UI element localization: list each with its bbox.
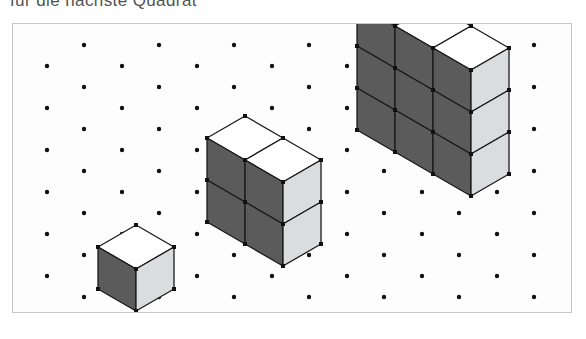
grid-dot bbox=[45, 148, 49, 152]
cube-vertex-dot bbox=[355, 44, 359, 48]
grid-dot bbox=[195, 106, 199, 110]
cube-vertex-dot bbox=[172, 245, 176, 249]
grid-dot bbox=[82, 85, 86, 89]
cube-vertex-dot bbox=[205, 136, 209, 140]
cube-structures-diagram bbox=[13, 24, 572, 313]
cube-vertex-dot bbox=[507, 130, 511, 134]
cube-vertex-dot bbox=[431, 46, 435, 50]
grid-dot bbox=[457, 211, 461, 215]
grid-dot bbox=[345, 190, 349, 194]
grid-dot bbox=[532, 295, 536, 299]
cube-vertex-dot bbox=[469, 152, 473, 156]
cube-vertex-dot bbox=[393, 150, 397, 154]
grid-dot bbox=[195, 274, 199, 278]
grid-dot bbox=[195, 232, 199, 236]
cube-vertex-dot bbox=[281, 180, 285, 184]
grid-dot bbox=[232, 85, 236, 89]
grid-dot bbox=[345, 106, 349, 110]
cut-off-caption-text: für die nächste Quadrat bbox=[10, 0, 350, 11]
structure-1 bbox=[96, 223, 176, 313]
grid-dot bbox=[382, 253, 386, 257]
grid-dot bbox=[420, 190, 424, 194]
cube-vertex-dot bbox=[243, 114, 247, 118]
cube-vertex-dot bbox=[96, 245, 100, 249]
grid-dot bbox=[495, 274, 499, 278]
figure-frame bbox=[12, 23, 572, 313]
grid-dot bbox=[270, 106, 274, 110]
grid-dot bbox=[420, 274, 424, 278]
grid-dot bbox=[382, 295, 386, 299]
grid-dot bbox=[82, 169, 86, 173]
grid-dot bbox=[420, 232, 424, 236]
grid-dot bbox=[307, 253, 311, 257]
cube-vertex-dot bbox=[205, 178, 209, 182]
cube-vertex-dot bbox=[507, 172, 511, 176]
grid-dot bbox=[457, 295, 461, 299]
cube-vertex-dot bbox=[281, 136, 285, 140]
cube-vertex-dot bbox=[393, 24, 397, 28]
grid-dot bbox=[345, 232, 349, 236]
grid-dot bbox=[157, 211, 161, 215]
grid-dot bbox=[45, 232, 49, 236]
cube-vertex-dot bbox=[431, 130, 435, 134]
cube-vertex-dot bbox=[319, 158, 323, 162]
grid-dot bbox=[270, 64, 274, 68]
grid-dot bbox=[45, 106, 49, 110]
grid-dot bbox=[495, 232, 499, 236]
grid-dot bbox=[345, 148, 349, 152]
cube-vertex-dot bbox=[243, 242, 247, 246]
grid-dot bbox=[82, 211, 86, 215]
grid-dot bbox=[532, 43, 536, 47]
cube-vertex-dot bbox=[507, 46, 511, 50]
grid-dot bbox=[532, 85, 536, 89]
grid-dot bbox=[120, 190, 124, 194]
cube-vertex-dot bbox=[134, 223, 138, 227]
grid-dot bbox=[532, 169, 536, 173]
cube-vertex-dot bbox=[393, 108, 397, 112]
cube-vertex-dot bbox=[355, 128, 359, 132]
grid-dot bbox=[232, 253, 236, 257]
grid-dot bbox=[307, 43, 311, 47]
cube-vertex-dot bbox=[319, 200, 323, 204]
cube-vertex-dot bbox=[431, 172, 435, 176]
grid-dot bbox=[82, 253, 86, 257]
grid-dot bbox=[195, 148, 199, 152]
cube-vertex-dot bbox=[469, 24, 473, 28]
cube-vertex-dot bbox=[134, 267, 138, 271]
cube-vertex-dot bbox=[281, 264, 285, 268]
cube-vertex-dot bbox=[469, 110, 473, 114]
grid-dot bbox=[345, 274, 349, 278]
structure-2 bbox=[205, 114, 323, 268]
cube-vertex-dot bbox=[205, 220, 209, 224]
cube-vertex-dot bbox=[243, 158, 247, 162]
grid-dot bbox=[382, 211, 386, 215]
grid-dot bbox=[45, 274, 49, 278]
grid-dot bbox=[232, 295, 236, 299]
grid-dot bbox=[232, 43, 236, 47]
grid-dot bbox=[157, 169, 161, 173]
grid-dot bbox=[532, 253, 536, 257]
cube-vertex-dot bbox=[507, 88, 511, 92]
grid-dot bbox=[82, 127, 86, 131]
cube-vertex-dot bbox=[134, 309, 138, 313]
cube-vertex-dot bbox=[243, 200, 247, 204]
figure-stage: für die nächste Quadrat bbox=[0, 0, 586, 339]
grid-dot bbox=[195, 190, 199, 194]
grid-dot bbox=[157, 85, 161, 89]
grid-dot bbox=[382, 169, 386, 173]
grid-dot bbox=[307, 85, 311, 89]
grid-dot bbox=[457, 253, 461, 257]
cube-vertex-dot bbox=[393, 66, 397, 70]
grid-dot bbox=[120, 106, 124, 110]
grid-dot bbox=[307, 127, 311, 131]
cube-vertex-dot bbox=[431, 88, 435, 92]
grid-dot bbox=[82, 295, 86, 299]
grid-dot bbox=[120, 148, 124, 152]
cube-vertex-dot bbox=[96, 287, 100, 291]
grid-dot bbox=[495, 190, 499, 194]
grid-dot bbox=[157, 127, 161, 131]
cube-vertex-dot bbox=[469, 194, 473, 198]
cube-vertex-dot bbox=[469, 68, 473, 72]
cube-vertex-dot bbox=[319, 242, 323, 246]
grid-dot bbox=[532, 127, 536, 131]
